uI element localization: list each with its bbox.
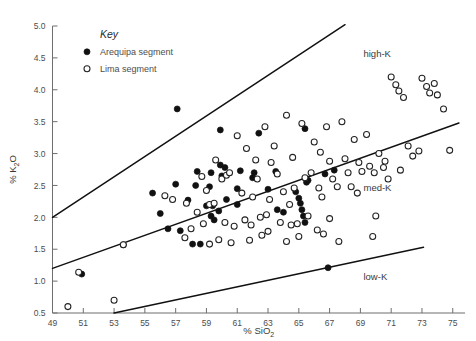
data-point-arequipa [208,170,214,176]
data-point-lima [401,94,407,100]
data-point-lima [247,237,253,243]
data-point-lima [405,143,411,149]
data-point-lima [351,137,357,143]
data-point-lima [447,147,453,153]
data-point-lima [319,194,325,200]
y-tick-label: 2.0 [34,213,46,223]
data-point-lima [243,145,249,151]
data-point-lima [228,240,234,246]
data-point-lima [291,185,297,191]
data-point-lima [253,157,259,163]
data-point-lima [416,148,422,154]
data-point-arequipa [217,127,223,133]
data-point-lima [248,222,254,228]
data-point-lima [348,184,354,190]
data-point-lima [76,269,82,275]
data-point-lima [367,163,373,169]
data-point-lima [287,202,293,208]
data-point-lima [239,190,245,196]
data-point-lima [268,159,274,165]
x-tick-label: 65 [294,318,304,328]
data-point-lima [299,121,305,127]
axes: 0.51.01.52.02.53.03.54.04.55.04951535557… [34,21,465,328]
data-point-lima [120,242,126,248]
data-point-arequipa [265,186,271,192]
y-tick-label: 4.0 [34,85,46,95]
data-point-lima [424,84,430,90]
data-point-arequipa [211,217,217,223]
x-tick-label: 49 [48,318,58,328]
data-point-lima [254,176,260,182]
data-point-lima [194,209,200,215]
data-point-arequipa [280,209,286,215]
y-tick-label: 1.5 [34,244,46,254]
data-point-lima [265,228,271,234]
data-point-arequipa [157,211,163,217]
data-point-lima [284,112,290,118]
data-point-lima [356,159,362,165]
y-tick-label: 5.0 [34,21,46,31]
data-point-lima [259,232,265,238]
data-point-lima [393,82,399,88]
data-point-arequipa [256,130,262,136]
data-point-lima [280,189,286,195]
data-point-lima [170,196,176,202]
data-point-lima [327,158,333,164]
y-tick-label: 1.0 [34,276,46,286]
data-point-arequipa [299,207,305,213]
data-point-lima [396,88,402,94]
data-point-arequipa [223,196,229,202]
data-point-lima [441,106,447,112]
data-point-arequipa [234,202,240,208]
data-point-lima [227,170,233,176]
x-tick-label: 69 [356,318,366,328]
data-point-arequipa [150,190,156,196]
x-tick-label: 59 [202,318,212,328]
data-point-lima [242,217,248,223]
data-point-lima [250,194,256,200]
data-point-arequipa [165,226,171,232]
data-point-lima [371,170,377,176]
data-point-lima [431,80,437,86]
plot-canvas: 0.51.01.52.02.53.03.54.04.55.04951535557… [0,0,476,341]
data-point-arequipa [174,106,180,112]
x-tick-label: 55 [140,318,150,328]
data-point-lima [65,304,71,310]
x-tick-label: 53 [109,318,119,328]
data-point-lima [370,233,376,239]
data-point-arequipa [173,181,179,187]
data-point-lima [203,188,209,194]
data-point-lima [294,221,300,227]
data-point-lima [336,239,342,245]
data-point-lima [271,143,277,149]
data-point-lima [330,176,336,182]
data-point-lima [213,157,219,163]
data-point-lima [262,124,268,130]
data-point-lima [342,156,348,162]
data-point-lima [111,297,117,303]
x-tick-label: 67 [325,318,335,328]
data-point-lima [302,175,308,181]
data-point-arequipa [331,167,337,173]
legend-entry-label: Arequipa segment [100,47,174,57]
data-point-lima [182,235,188,241]
data-point-arequipa [177,228,183,234]
data-point-arequipa [274,207,280,213]
legend-marker-filled-circle-icon [84,49,90,55]
data-point-lima [211,200,217,206]
data-point-lima [308,170,314,176]
data-point-lima [410,153,416,159]
data-point-lima [380,165,386,171]
data-point-lima [376,151,382,157]
data-point-lima [314,227,320,233]
data-point-arequipa [197,241,203,247]
data-point-lima [373,213,379,219]
data-point-lima [397,167,403,173]
y-tick-label: 3.5 [34,117,46,127]
data-point-arequipa [325,265,331,271]
data-point-lima [364,131,370,137]
y-axis-title-post: O [7,155,18,162]
y-tick-label: 2.5 [34,181,46,191]
data-point-arequipa [237,168,243,174]
y-tick-label: 0.5 [34,308,46,318]
